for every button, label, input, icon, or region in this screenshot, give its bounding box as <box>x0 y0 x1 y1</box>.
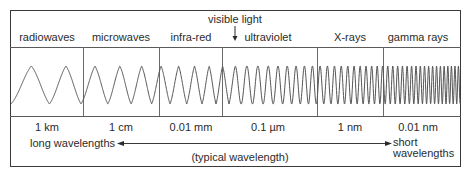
diagram-graphics <box>0 0 468 174</box>
visible-light-arrow-icon <box>233 26 238 41</box>
em-spectrum-diagram: radiowaves microwaves infra-red ultravio… <box>0 0 468 174</box>
wave-path <box>11 66 460 104</box>
wavelength-axis-arrow-icon <box>117 141 392 146</box>
